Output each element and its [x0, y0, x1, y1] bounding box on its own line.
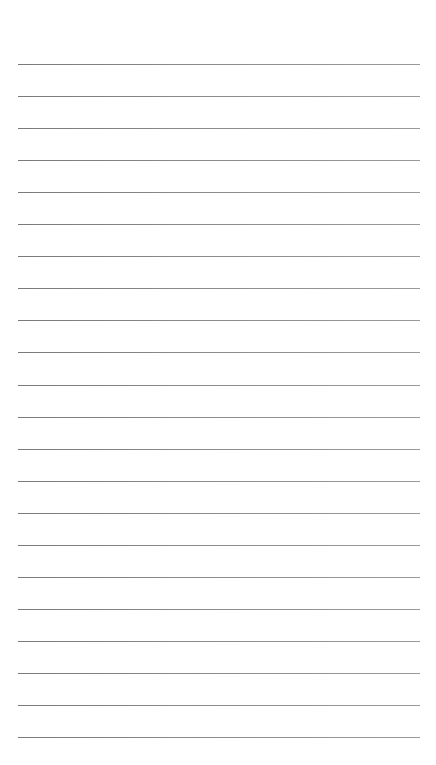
ruled-line — [18, 64, 420, 65]
ruled-line — [18, 673, 420, 674]
ruled-line — [18, 417, 420, 418]
ruled-line — [18, 609, 420, 610]
ruled-line — [18, 128, 420, 129]
ruled-line — [18, 256, 420, 257]
lined-paper-page — [0, 0, 436, 765]
ruled-line — [18, 352, 420, 353]
ruled-line — [18, 449, 420, 450]
ruled-line — [18, 641, 420, 642]
ruled-line — [18, 288, 420, 289]
ruled-line — [18, 224, 420, 225]
ruled-line — [18, 320, 420, 321]
ruled-line — [18, 737, 420, 738]
ruled-line — [18, 192, 420, 193]
ruled-line — [18, 705, 420, 706]
ruled-line — [18, 160, 420, 161]
ruled-line — [18, 481, 420, 482]
ruled-line — [18, 577, 420, 578]
ruled-line — [18, 385, 420, 386]
ruled-line — [18, 545, 420, 546]
ruled-line — [18, 96, 420, 97]
ruled-line — [18, 513, 420, 514]
